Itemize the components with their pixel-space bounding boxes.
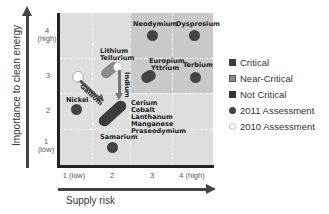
x-tick-2: 2	[106, 172, 118, 180]
open-circle-icon	[229, 123, 236, 130]
grid-line-x	[172, 13, 173, 165]
indium-arrow	[118, 70, 121, 94]
x-tick-4: 4 (high)	[172, 172, 212, 180]
legend-item-critical: Critical	[229, 56, 269, 68]
square-icon	[229, 91, 236, 98]
legend-item-2011: 2011 Assessment	[229, 104, 314, 116]
label-praseodymium: Praseodymium	[131, 128, 186, 136]
label-terbium: Terbium	[183, 62, 213, 70]
plot-bottom-border	[57, 165, 214, 168]
x-axis-title: Supply risk	[66, 195, 115, 206]
y-tick-2: 2	[40, 107, 56, 115]
point-terbium	[190, 72, 201, 83]
y-tick-4: 4 (high)	[36, 27, 58, 43]
point-dysprosium	[189, 30, 200, 41]
y-axis-title: Importance to clean energy	[11, 21, 22, 151]
point-neodymium	[147, 30, 158, 41]
legend-item-not-critical: Not Critical	[229, 88, 286, 100]
label-yttrium: Yttrium	[151, 65, 179, 73]
label-samarium: Samarium	[100, 134, 138, 142]
label-neodymium: Neodymium	[133, 21, 177, 29]
point-nickel	[71, 104, 82, 115]
square-icon	[229, 59, 236, 66]
filled-circle-icon	[229, 107, 236, 114]
y-tick-3: 3	[40, 72, 56, 80]
y-tick-1: 1 (low)	[36, 138, 56, 154]
label-dysprosium: Dysprosium	[176, 21, 220, 29]
plot-left-border	[57, 13, 60, 168]
x-tick-1: 1 (low)	[58, 172, 90, 180]
x-tick-3: 3	[146, 172, 158, 180]
legend-item-2010: 2010 Assessment	[229, 120, 315, 132]
grid-line-y	[59, 58, 213, 59]
point-samarium	[107, 142, 118, 153]
square-icon	[229, 75, 236, 82]
legend-item-near-critical: Near-Critical	[229, 72, 293, 84]
label-indium: Indium	[123, 72, 131, 98]
